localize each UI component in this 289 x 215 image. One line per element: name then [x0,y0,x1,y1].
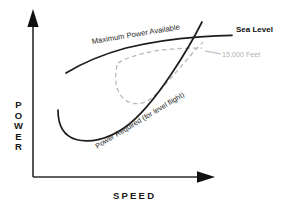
y-axis-title-letter: P [15,100,21,111]
x-axis-arrow-icon [197,171,215,183]
label-sea-level: Sea Level [236,26,273,34]
y-axis-title: P O W E R [14,100,23,153]
altitude-leader-line [205,51,221,54]
y-axis-arrow-icon [27,9,38,27]
curve-max-power-15000ft [118,48,202,63]
y-axis-title-letter: W [14,121,23,132]
power-speed-chart: P O W E R SPEED Maximum Power Available … [0,0,289,215]
curve-power-required-15000ft [116,42,203,104]
y-axis-title-letter: R [15,142,22,153]
x-axis-title: SPEED [113,191,156,201]
label-altitude-15000-feet: 15,000 Feet [222,51,260,58]
